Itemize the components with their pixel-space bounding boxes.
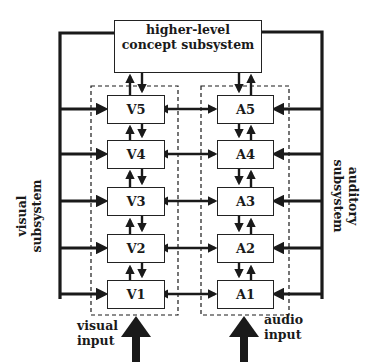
concept-box-line2: concept subsystem [122, 37, 255, 52]
audio-module-a1: A1 [217, 280, 274, 309]
visual-subsystem-label-line2: subsystem [29, 176, 44, 256]
audio-input-label-line2: input [264, 327, 303, 342]
visual-input-label: visual input [77, 318, 118, 348]
visual-subsystem-label: visual subsystem [14, 176, 46, 256]
diagram-canvas: higher-level concept subsystem V5 V4 V3 … [0, 0, 378, 362]
concept-box-line1: higher-level [122, 22, 255, 37]
input-arrows [121, 316, 259, 362]
auditory-subsystem-label: auditory subsystem [329, 156, 361, 236]
visual-module-v2: V2 [107, 234, 165, 263]
visual-subsystem-label-line1: visual [14, 176, 29, 256]
auditory-subsystem-label-line2: subsystem [331, 156, 346, 236]
audio-input-label-line1: audio [264, 312, 303, 327]
audio-input-label: audio input [264, 312, 303, 342]
visual-module-v4: V4 [107, 140, 165, 169]
visual-module-v3: V3 [107, 187, 165, 216]
auditory-subsystem-label-line1: auditory [346, 156, 361, 236]
audio-module-a5: A5 [217, 95, 274, 124]
audio-module-a2: A2 [217, 234, 274, 263]
audio-module-a3: A3 [217, 187, 274, 216]
visual-module-v1: V1 [107, 280, 165, 309]
higher-level-concept-box: higher-level concept subsystem [114, 20, 262, 73]
visual-input-label-line2: input [77, 333, 118, 348]
audio-module-a4: A4 [217, 140, 274, 169]
visual-input-label-line1: visual [77, 318, 118, 333]
visual-module-v5: V5 [107, 95, 165, 124]
